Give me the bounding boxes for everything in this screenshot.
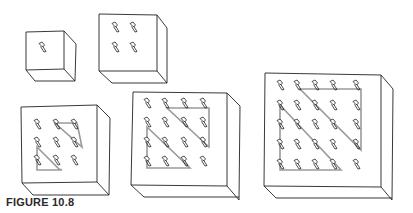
cube-1x1 xyxy=(26,31,76,81)
figure-illustration xyxy=(0,0,413,213)
cube-2x2 xyxy=(99,14,167,83)
figure-caption: FIGURE 10.8 xyxy=(6,196,74,208)
cube-3x3 xyxy=(21,105,110,195)
cube-5x5 xyxy=(264,73,393,200)
cube-4x4 xyxy=(131,92,240,200)
